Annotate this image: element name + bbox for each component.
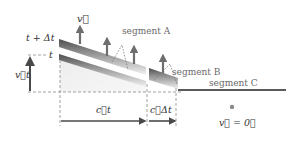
c-dt-label: c⃗Δt [150,104,172,115]
segment-c-label: segment C [209,78,258,88]
vt-label: v⃗t [15,69,30,80]
v-zero-label: v⃗ = 0⃗ [219,117,256,128]
velocity-label: v⃗ [77,13,89,24]
segment-a-label: segment A [122,26,171,36]
ct-label: c⃗t [96,104,111,115]
segment-b-label: segment B [172,67,221,77]
wave-pulse-diagram: v⃗ t + Δt t v⃗t c⃗t c⃗Δt segment A segme… [0,0,300,144]
t-plus-dt-label: t + Δt [26,32,55,43]
zero-velocity-dot [230,105,234,109]
t-label: t [49,49,53,60]
